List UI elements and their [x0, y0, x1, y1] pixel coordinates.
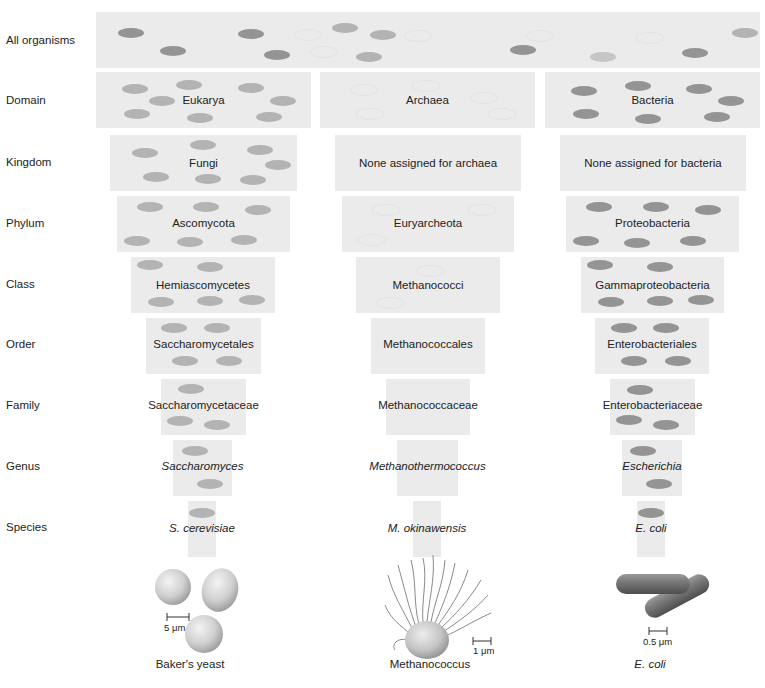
- taxon-box-phylum-proteobacteria: Proteobacteria: [566, 196, 739, 252]
- bacterium-cell-icon: [586, 202, 612, 212]
- taxon-label: E. coli: [597, 522, 705, 534]
- taxon-box-class-gammaproteobacteria: Gammaproteobacteria: [581, 257, 724, 313]
- yeast-cell-icon: [256, 112, 282, 122]
- illustration-caption: E. coli: [610, 658, 690, 670]
- taxon-label: Saccharomycetales: [146, 338, 261, 350]
- bacterium-cell-icon: [647, 296, 673, 306]
- bacterium-cell-icon: [624, 238, 650, 248]
- yeast-cells-icon: [155, 565, 245, 657]
- bacterium-cell-icon: [686, 84, 712, 94]
- taxon-label: Archaea: [320, 94, 535, 106]
- taxon-label: S. cerevisiae: [148, 522, 256, 534]
- yeast-cell-icon: [189, 508, 215, 518]
- taxon-box-family-enterobacteriaceae: Enterobacteriaceae: [610, 379, 695, 435]
- yeast-cell-icon: [137, 202, 163, 212]
- bacterium-cell-icon: [695, 205, 721, 215]
- taxon-label: Proteobacteria: [566, 217, 739, 229]
- eukarya-cell-icon: [356, 52, 382, 62]
- taxon-label: Saccharomyces: [143, 460, 262, 472]
- taxon-label: None assigned for bacteria: [560, 157, 746, 169]
- taxon-label: Fungi: [110, 157, 297, 169]
- archaea-cell-icon: [404, 30, 432, 42]
- taxon-box-species-m-okinawensis: M. okinawensis: [413, 501, 441, 557]
- bacteria-cell-icon: [160, 46, 186, 56]
- bacterium-cell-icon: [627, 385, 653, 395]
- yeast-cell-icon: [178, 384, 204, 394]
- illustration-caption: Baker's yeast: [140, 658, 240, 670]
- yeast-cell-icon: [204, 323, 230, 333]
- yeast-cell-icon: [190, 140, 216, 150]
- yeast-cell-icon: [167, 416, 193, 426]
- archaea-cell-icon: [310, 46, 338, 58]
- bacteria-cell-icon: [264, 50, 290, 60]
- taxon-box-order-enterobacteriales: Enterobacteriales: [595, 318, 709, 374]
- bacterium-cell-icon: [635, 114, 661, 124]
- bacterium-cell-icon: [688, 295, 714, 305]
- rank-label-family: Family: [6, 399, 40, 411]
- yeast-cell-icon: [247, 145, 273, 155]
- archaea-cell-icon: [526, 30, 554, 42]
- taxon-box-order-saccharomycetales: Saccharomycetales: [146, 318, 261, 374]
- rank-label-class: Class: [6, 278, 35, 290]
- taxon-label: Gammaproteobacteria: [581, 279, 724, 291]
- taxon-box-kingdom-none-bacteria: None assigned for bacteria: [560, 135, 746, 191]
- archaea-cell-icon: [356, 108, 384, 120]
- yeast-cell-icon: [231, 235, 257, 245]
- yeast-cell-icon: [238, 83, 264, 93]
- taxon-label: Enterobacteriales: [595, 338, 709, 350]
- taxon-box-domain-eukarya: Eukarya: [96, 72, 311, 128]
- bacteria-cell-icon: [238, 29, 264, 39]
- scale-bar-icon: [648, 627, 668, 635]
- bacteria-cell-icon: [118, 28, 144, 38]
- yeast-cell-icon: [161, 323, 187, 333]
- bacterium-cell-icon: [573, 109, 599, 119]
- taxon-box-kingdom-fungi: Fungi: [110, 135, 297, 191]
- taxon-label: Enterobacteriaceae: [580, 399, 725, 411]
- bacterium-cell-icon: [680, 236, 706, 246]
- bacterium-cell-icon: [625, 81, 651, 91]
- bacterium-cell-icon: [621, 356, 647, 366]
- bacterium-cell-icon: [653, 420, 679, 430]
- taxon-box-class-methanococci: Methanococci: [356, 257, 500, 313]
- yeast-cell-icon: [176, 80, 202, 90]
- taxon-box-domain-bacteria: Bacteria: [545, 72, 760, 128]
- bacterium-cell-icon: [611, 323, 637, 333]
- yeast-cell-icon: [204, 420, 230, 430]
- taxon-box-order-methanococcales: Methanococcales: [371, 318, 485, 374]
- yeast-cell-icon: [239, 295, 265, 305]
- taxon-box-domain-archaea: Archaea: [320, 72, 535, 128]
- rank-label-order: Order: [6, 338, 35, 350]
- bacterium-cell-icon: [647, 262, 673, 272]
- taxon-box-genus-saccharomyces: Saccharomyces: [173, 440, 232, 496]
- bacterium-cell-icon: [587, 260, 613, 270]
- archaea-cell-icon: [358, 234, 386, 246]
- taxon-box-class-hemiascomycetes: Hemiascomycetes: [131, 257, 275, 313]
- yeast-cell-icon: [240, 175, 266, 185]
- eukarya-cell-icon: [332, 23, 358, 33]
- taxon-box-genus-methanothermococcus: Methanothermococcus: [397, 440, 458, 496]
- yeast-cell-icon: [216, 356, 242, 366]
- yeast-cell-icon: [137, 260, 163, 270]
- bacterium-cell-icon: [630, 446, 656, 456]
- bacterium-cell-icon: [598, 297, 624, 307]
- taxon-box-species-e-coli: E. coli: [637, 501, 665, 557]
- taxon-label: Hemiascomycetes: [131, 279, 275, 291]
- taxon-box-family-saccharomycetaceae: Saccharomycetaceae: [161, 379, 246, 435]
- taxon-label: None assigned for archaea: [335, 157, 521, 169]
- yeast-cell-icon: [124, 109, 150, 119]
- taxon-label: Saccharomycetaceae: [131, 399, 276, 411]
- taxon-label: Methanococcales: [371, 338, 485, 350]
- eukarya-cell-icon: [370, 30, 396, 40]
- bacterium-cell-icon: [616, 415, 642, 425]
- taxon-box-phylum-euryarcheota: Euryarcheota: [342, 196, 514, 252]
- bacteria-cell-icon: [510, 45, 536, 55]
- yeast-cell-icon: [195, 174, 221, 184]
- taxon-box-species-s-cerevisiae: S. cerevisiae: [188, 501, 216, 557]
- taxon-label: Methanococcaceae: [356, 399, 500, 411]
- taxon-label: Methanothermococcus: [357, 460, 498, 472]
- rank-label-domain: Domain: [6, 94, 46, 106]
- scale-bar-icon: [166, 613, 190, 621]
- scale-label: 0.5 μm: [643, 636, 672, 647]
- taxon-label: Escherichia: [592, 460, 712, 472]
- taxon-box-family-methanococcaceae: Methanococcaceae: [386, 379, 470, 435]
